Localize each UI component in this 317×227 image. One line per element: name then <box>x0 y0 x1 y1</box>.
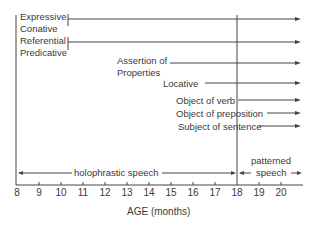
label-conative: Conative <box>20 23 58 34</box>
label-patterned: patterned <box>251 155 291 166</box>
label-assertion-of: Assertion of <box>117 55 167 66</box>
tick-11: 11 <box>73 187 93 198</box>
tick-14: 14 <box>139 187 159 198</box>
axis-label: AGE (months) <box>127 206 190 217</box>
tick-9: 9 <box>29 187 49 198</box>
label-object-of-preposition: Object of preposition <box>176 108 263 119</box>
label-predicative: Predicative <box>20 47 67 58</box>
label-subject-of-sentence: Subject of sentence <box>178 121 261 132</box>
tick-12: 12 <box>95 187 115 198</box>
label-properties: Properties <box>117 67 160 78</box>
label-locative: Locative <box>163 78 198 89</box>
label-referential: Referential <box>20 35 66 46</box>
label-expressive: Expressive <box>20 11 66 22</box>
tick-16: 16 <box>183 187 203 198</box>
tick-13: 13 <box>117 187 137 198</box>
label-speech: speech <box>256 167 287 178</box>
tick-15: 15 <box>161 187 181 198</box>
tick-19: 19 <box>249 187 269 198</box>
tick-10: 10 <box>51 187 71 198</box>
tick-17: 17 <box>205 187 225 198</box>
label-holophrastic-speech: holophrastic speech <box>74 167 159 178</box>
tick-8: 8 <box>7 187 27 198</box>
label-object-of-verb: Object of verb <box>176 95 235 106</box>
tick-20: 20 <box>271 187 291 198</box>
tick-18: 18 <box>227 187 247 198</box>
